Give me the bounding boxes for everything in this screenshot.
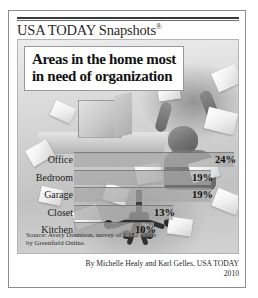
byline-year: 2010 [17, 269, 239, 279]
bar-track: 24% [74, 152, 234, 167]
registered-trademark-icon: ® [156, 22, 162, 31]
bar-value-office: 24% [215, 154, 236, 165]
bar-value-closet: 13% [154, 207, 175, 218]
chart-panel: Areas in the home most in need of organi… [17, 39, 239, 254]
snapshot-frame: USA TODAY Snapshots® [8, 10, 246, 288]
bar-value-garage: 19% [192, 189, 213, 200]
byline-authors: By Michelle Healy and Karl Gelles, USA T… [17, 259, 239, 269]
flying-paper [50, 100, 77, 124]
bar-value-bedroom: 19% [192, 172, 213, 183]
masthead-title: USA TODAY Snapshots® [17, 22, 162, 39]
bar-chart: Office 24% Bedroom 19% Garage 19% [18, 152, 239, 240]
source-line-1: Source: Avery Dennison, survey of 2,182 … [26, 231, 232, 239]
bar-track: 13% [74, 205, 173, 220]
bar-track: 19% [74, 170, 211, 185]
bar-label-office: Office [17, 154, 73, 165]
masthead-rule-top [17, 17, 239, 19]
headline-line-1: Areas in the home most [32, 51, 176, 68]
flying-paper [211, 64, 239, 93]
bar-row: Closet 13% [18, 205, 239, 223]
bar-row: Office 24% [18, 152, 239, 170]
masthead-rule-bottom [17, 20, 239, 21]
bar-row: Garage 19% [18, 187, 239, 205]
source-line-2: by Greenfield Online. [26, 239, 232, 247]
bar-label-bedroom: Bedroom [17, 172, 73, 183]
storage-box-side-icon [114, 92, 132, 138]
masthead-title-text: USA TODAY Snapshots [17, 22, 156, 38]
bar-fill-office [74, 152, 234, 167]
bar-row: Bedroom 19% [18, 170, 239, 188]
bar-fill-bedroom [74, 170, 211, 185]
bar-fill-garage [74, 187, 211, 202]
bar-label-closet: Closet [17, 207, 73, 218]
bar-label-garage: Garage [17, 189, 73, 200]
byline: By Michelle Healy and Karl Gelles, USA T… [17, 259, 239, 278]
bar-track: 19% [74, 187, 211, 202]
person-left-arm [154, 101, 173, 133]
headline-line-2: in need of organization [32, 68, 176, 85]
source-note: Source: Avery Dennison, survey of 2,182 … [26, 231, 232, 247]
flying-paper [204, 107, 238, 136]
headline-box: Areas in the home most in need of organi… [24, 46, 184, 91]
